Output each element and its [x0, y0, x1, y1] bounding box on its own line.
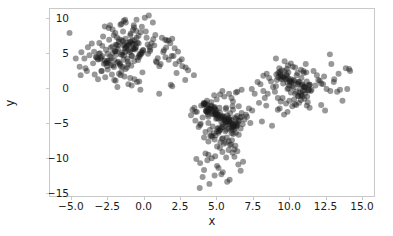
x-tick-label: 12.5 [314, 200, 337, 212]
data-point [73, 56, 79, 62]
data-point [259, 119, 265, 125]
plot-area [49, 8, 375, 197]
data-point [107, 22, 113, 28]
data-point [140, 47, 146, 53]
x-tick-mark [289, 197, 290, 200]
y-tick-label: 10 [56, 12, 69, 24]
data-point [200, 114, 206, 120]
data-point [233, 116, 239, 122]
data-point [208, 99, 214, 105]
data-point [113, 78, 119, 84]
data-point [147, 48, 153, 54]
data-point [200, 174, 206, 180]
data-point [249, 86, 255, 92]
data-points-layer [50, 9, 374, 196]
data-point [262, 95, 268, 101]
data-point [144, 35, 150, 41]
data-point [129, 53, 135, 59]
data-point [238, 126, 244, 132]
data-point [129, 83, 135, 89]
y-tick-label: 5 [62, 47, 69, 59]
data-point [109, 71, 115, 77]
data-point [244, 114, 250, 120]
data-point [256, 100, 262, 106]
x-tick-mark [180, 197, 181, 200]
data-point [290, 64, 296, 70]
data-point [283, 101, 289, 107]
data-point [249, 107, 255, 113]
data-point [307, 105, 313, 111]
data-point [138, 29, 144, 35]
y-tick-label: −10 [47, 152, 69, 164]
data-point [131, 37, 137, 43]
y-tick-label: −15 [47, 187, 69, 199]
x-tick-mark [71, 197, 72, 200]
data-point [232, 143, 238, 149]
x-tick-mark [326, 197, 327, 200]
data-point [197, 185, 203, 191]
data-point [122, 74, 128, 80]
data-point [201, 100, 207, 106]
data-point [97, 50, 103, 56]
data-point [114, 84, 120, 90]
data-point [255, 79, 261, 85]
data-point [114, 35, 120, 41]
data-point [269, 123, 275, 129]
data-point [90, 60, 96, 66]
x-tick-label: 5.0 [208, 200, 225, 212]
x-tick-label: 10.0 [277, 200, 300, 212]
data-point [100, 34, 106, 40]
data-point [260, 73, 266, 79]
data-point [156, 91, 162, 97]
data-point [214, 128, 220, 134]
data-point [126, 41, 132, 47]
y-tick-mark [46, 158, 49, 159]
data-point [115, 43, 121, 49]
data-point [282, 58, 288, 64]
data-point [67, 30, 73, 36]
data-point [108, 45, 114, 51]
y-tick-mark [46, 53, 49, 54]
data-point [87, 52, 93, 58]
data-point [137, 54, 143, 60]
data-point [247, 120, 253, 126]
data-point [192, 109, 198, 115]
data-point [193, 156, 199, 162]
data-point [229, 137, 235, 143]
y-tick-mark [46, 18, 49, 19]
data-point [339, 98, 345, 104]
data-point [125, 48, 131, 54]
x-tick-mark [107, 197, 108, 200]
data-point [322, 107, 328, 113]
x-tick-label: −5.0 [58, 200, 84, 212]
data-point [292, 101, 298, 107]
data-point [300, 68, 306, 74]
data-point [206, 181, 212, 187]
data-point [139, 24, 145, 30]
data-point [191, 72, 197, 78]
data-point [169, 83, 175, 89]
data-point [81, 56, 87, 62]
data-point [104, 63, 110, 69]
data-point [91, 49, 97, 55]
data-point [211, 105, 217, 111]
data-point [89, 41, 95, 47]
data-point [175, 49, 181, 55]
data-point [312, 83, 318, 89]
data-point [166, 57, 172, 63]
data-point [307, 82, 313, 88]
data-point [106, 37, 112, 43]
data-point [277, 76, 283, 82]
data-point [272, 89, 278, 95]
data-point [185, 67, 191, 73]
data-point [136, 78, 142, 84]
data-point [204, 157, 210, 163]
data-point [161, 47, 167, 53]
data-point [268, 78, 274, 84]
data-point [230, 98, 236, 104]
data-point [291, 85, 297, 91]
data-point [197, 122, 203, 128]
data-point [205, 152, 211, 158]
x-tick-mark [362, 197, 363, 200]
x-tick-mark [216, 197, 217, 200]
